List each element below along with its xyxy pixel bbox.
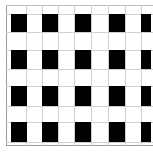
black-cell <box>141 50 151 69</box>
black-cell <box>11 50 27 69</box>
grid-row-line <box>6 142 153 143</box>
black-cell <box>109 122 125 142</box>
black-cell <box>75 122 91 142</box>
black-cell <box>11 86 27 106</box>
grid-column-line <box>125 5 126 146</box>
grid-column-line <box>58 5 59 146</box>
black-cell <box>11 122 27 142</box>
black-cell <box>141 122 151 142</box>
black-cell <box>11 14 27 32</box>
black-cell <box>42 86 58 106</box>
grid-row-line <box>6 32 153 33</box>
grid-column-line <box>91 5 92 146</box>
black-cell <box>109 50 125 69</box>
black-cell <box>42 50 58 69</box>
black-cell <box>109 86 125 106</box>
grid-row-line <box>6 106 153 107</box>
black-cell <box>141 14 151 32</box>
black-cell <box>75 14 91 32</box>
black-cell <box>42 122 58 142</box>
black-cell <box>141 86 151 106</box>
black-cell <box>109 14 125 32</box>
black-cell <box>75 86 91 106</box>
black-cell <box>75 50 91 69</box>
grid-row-line <box>6 69 153 70</box>
black-cell <box>42 14 58 32</box>
